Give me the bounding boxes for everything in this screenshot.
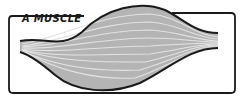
label-underline xyxy=(19,28,60,40)
figure-label: A MUSCLE xyxy=(22,13,81,24)
